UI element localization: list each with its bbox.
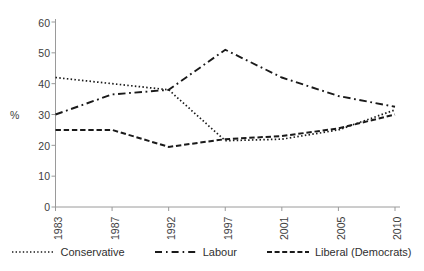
- dashdot-line-swatch: [155, 247, 197, 257]
- legend-item-conservative: Conservative: [12, 246, 124, 258]
- dotted-line-swatch: [12, 247, 54, 257]
- legend-item-labour: Labour: [155, 246, 237, 258]
- chart-legend: Conservative Labour Liberal (Democrats): [0, 246, 424, 258]
- legend-label-liberal-democrats: Liberal (Democrats): [315, 246, 412, 258]
- line-chart: 60 50 40 30 20 10 0 % 1983 1987 1992 199…: [0, 0, 424, 271]
- dashed-line-swatch: [267, 247, 309, 257]
- legend-label-conservative: Conservative: [60, 246, 124, 258]
- legend-item-liberal-democrats: Liberal (Democrats): [267, 246, 412, 258]
- plot-area: [0, 0, 424, 271]
- legend-label-labour: Labour: [203, 246, 237, 258]
